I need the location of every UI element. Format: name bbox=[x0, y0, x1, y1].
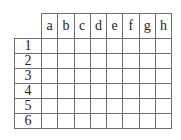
grid-cell[interactable] bbox=[139, 39, 155, 54]
grid-cell[interactable] bbox=[155, 99, 171, 114]
grid-cell[interactable] bbox=[74, 114, 90, 129]
grid-cell[interactable] bbox=[90, 114, 106, 129]
grid-cell[interactable] bbox=[42, 99, 58, 114]
table-row: 1 bbox=[15, 39, 172, 54]
column-header-g: g bbox=[139, 14, 155, 39]
column-header-row: a b c d e f g h bbox=[15, 14, 172, 39]
row-header-6: 6 bbox=[15, 114, 42, 129]
grid-cell[interactable] bbox=[74, 54, 90, 69]
grid-cell[interactable] bbox=[90, 39, 106, 54]
grid-cell[interactable] bbox=[107, 39, 123, 54]
grid-cell[interactable] bbox=[107, 69, 123, 84]
grid-cell[interactable] bbox=[42, 39, 58, 54]
row-header-4: 4 bbox=[15, 84, 42, 99]
grid-cell[interactable] bbox=[123, 99, 139, 114]
grid-cell[interactable] bbox=[139, 114, 155, 129]
grid-cell[interactable] bbox=[42, 54, 58, 69]
grid-cell[interactable] bbox=[74, 99, 90, 114]
column-header-a: a bbox=[42, 14, 58, 39]
grid-cell[interactable] bbox=[58, 54, 74, 69]
table-row: 4 bbox=[15, 84, 172, 99]
grid-cell[interactable] bbox=[90, 99, 106, 114]
grid-cell[interactable] bbox=[74, 39, 90, 54]
table-row: 2 bbox=[15, 54, 172, 69]
grid-cell[interactable] bbox=[107, 84, 123, 99]
grid-cell[interactable] bbox=[123, 39, 139, 54]
grid-cell[interactable] bbox=[74, 84, 90, 99]
grid-cell[interactable] bbox=[123, 69, 139, 84]
column-header-d: d bbox=[90, 14, 106, 39]
grid-cell[interactable] bbox=[90, 84, 106, 99]
letter-number-grid: a b c d e f g h 1 2 bbox=[14, 13, 172, 129]
table-row: 5 bbox=[15, 99, 172, 114]
row-header-3: 3 bbox=[15, 69, 42, 84]
row-header-5: 5 bbox=[15, 99, 42, 114]
grid-cell[interactable] bbox=[58, 39, 74, 54]
grid-cell[interactable] bbox=[155, 54, 171, 69]
grid-cell[interactable] bbox=[123, 84, 139, 99]
grid-cell[interactable] bbox=[139, 69, 155, 84]
grid-cell[interactable] bbox=[42, 69, 58, 84]
grid-cell[interactable] bbox=[58, 84, 74, 99]
grid-cell[interactable] bbox=[123, 114, 139, 129]
grid-cell[interactable] bbox=[58, 114, 74, 129]
column-header-h: h bbox=[155, 14, 171, 39]
grid-cell[interactable] bbox=[155, 114, 171, 129]
grid-cell[interactable] bbox=[155, 84, 171, 99]
column-header-f: f bbox=[123, 14, 139, 39]
corner-cell bbox=[15, 14, 42, 39]
grid-cell[interactable] bbox=[155, 39, 171, 54]
row-header-2: 2 bbox=[15, 54, 42, 69]
grid-cell[interactable] bbox=[123, 54, 139, 69]
grid-cell[interactable] bbox=[58, 99, 74, 114]
grid-cell[interactable] bbox=[139, 99, 155, 114]
grid-cell[interactable] bbox=[58, 69, 74, 84]
grid-cell[interactable] bbox=[107, 99, 123, 114]
grid-cell[interactable] bbox=[139, 84, 155, 99]
grid-cell[interactable] bbox=[74, 69, 90, 84]
column-header-e: e bbox=[107, 14, 123, 39]
row-header-1: 1 bbox=[15, 39, 42, 54]
table-row: 6 bbox=[15, 114, 172, 129]
grid-cell[interactable] bbox=[90, 54, 106, 69]
grid-cell[interactable] bbox=[139, 54, 155, 69]
grid-cell[interactable] bbox=[107, 114, 123, 129]
table-row: 3 bbox=[15, 69, 172, 84]
grid-cell[interactable] bbox=[42, 84, 58, 99]
column-header-c: c bbox=[74, 14, 90, 39]
grid-cell[interactable] bbox=[90, 69, 106, 84]
grid-cell[interactable] bbox=[155, 69, 171, 84]
grid-cell[interactable] bbox=[107, 54, 123, 69]
grid-cell[interactable] bbox=[42, 114, 58, 129]
column-header-b: b bbox=[58, 14, 74, 39]
